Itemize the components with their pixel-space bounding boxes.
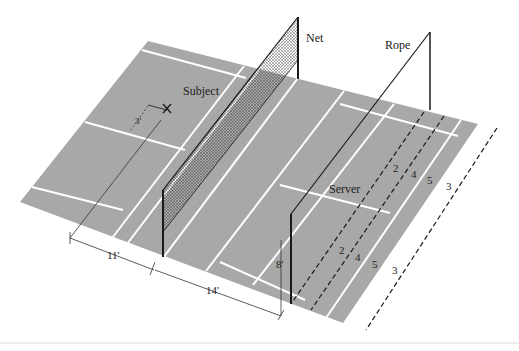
dimension-11ft: 11' [107,249,120,261]
subject-offset-label: 3' [135,116,142,126]
bottom-divider [0,342,519,344]
dimension-8ft: 8' [276,258,284,270]
zone-number-4-lower: 4 [355,251,361,263]
zone-number-5-lower: 5 [372,258,378,270]
zone-number-3-upper: 3 [446,180,452,192]
zone-number-2-upper: 2 [393,162,399,174]
net-label: Net [306,31,324,45]
subject-label: Subject [183,84,220,98]
rope-label: Rope [385,38,410,52]
zone-number-5-upper: 5 [427,174,433,186]
court-diagram: Net Rope Subject Server 3' 11' 14' 8' 2 … [0,0,519,351]
zone-number-2-lower: 2 [339,244,345,256]
server-label: Server [329,182,360,196]
zone-number-4-upper: 4 [411,168,417,180]
zone-number-3-lower: 3 [392,264,398,276]
dimension-14ft: 14' [206,284,219,296]
